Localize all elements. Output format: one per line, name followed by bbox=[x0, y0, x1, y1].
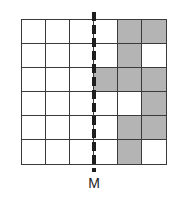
shaded-cell bbox=[118, 116, 142, 140]
grid-cell bbox=[70, 20, 94, 44]
grid-cell bbox=[70, 92, 94, 116]
grid-cell bbox=[46, 92, 70, 116]
mirror-line bbox=[92, 12, 96, 172]
grid-cell bbox=[94, 44, 118, 68]
grid-cell bbox=[70, 68, 94, 92]
mirror-line-label: M bbox=[86, 175, 102, 191]
grid-cell bbox=[46, 44, 70, 68]
grid-cell bbox=[94, 140, 118, 164]
grid-cell bbox=[22, 140, 46, 164]
grid-cell bbox=[22, 116, 46, 140]
grid-cell bbox=[22, 20, 46, 44]
grid-cell bbox=[94, 116, 118, 140]
shaded-cell bbox=[118, 20, 142, 44]
grid-cell bbox=[46, 20, 70, 44]
grid-cell bbox=[46, 116, 70, 140]
grid-cell bbox=[46, 140, 70, 164]
grid-cell bbox=[70, 140, 94, 164]
grid-cell bbox=[22, 68, 46, 92]
grid-cell bbox=[94, 92, 118, 116]
grid-cell bbox=[70, 44, 94, 68]
shaded-cell bbox=[118, 68, 142, 92]
shaded-cell bbox=[118, 140, 142, 164]
shaded-cell bbox=[142, 20, 166, 44]
grid-cell bbox=[70, 116, 94, 140]
grid-cell bbox=[118, 92, 142, 116]
shaded-cell bbox=[118, 44, 142, 68]
grid-cell bbox=[22, 92, 46, 116]
shaded-cell bbox=[142, 116, 166, 140]
shaded-cell bbox=[142, 92, 166, 116]
grid-cell bbox=[94, 20, 118, 44]
grid-cell bbox=[142, 140, 166, 164]
grid-cell bbox=[22, 44, 46, 68]
shaded-cell bbox=[142, 68, 166, 92]
grid-cell bbox=[142, 44, 166, 68]
grid-cell bbox=[46, 68, 70, 92]
shaded-cell bbox=[94, 68, 118, 92]
